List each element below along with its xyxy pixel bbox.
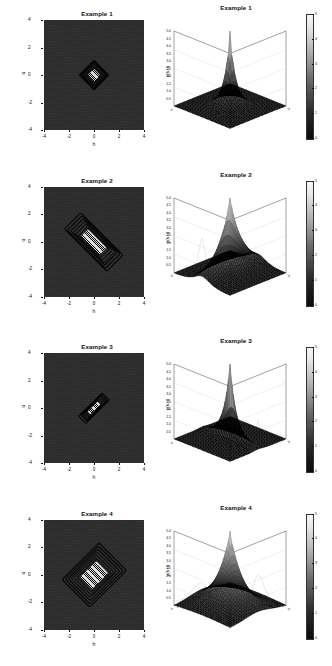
colorbar-tick-label: 1 (315, 611, 317, 615)
persp-z-tick-label: 1.5 (160, 581, 171, 585)
contour-y-tick-mark (41, 408, 43, 409)
perspective-plot: Example 25.04.54.03.53.02.52.01.51.00.5p… (160, 167, 332, 333)
persp-z-tick-label: 1.5 (160, 82, 171, 86)
contour-plot: Example 3420-2-4-4-2024hu (0, 333, 166, 499)
persp-z-tick-label: 4.0 (160, 44, 171, 48)
persp-z-tick-label: 5.0 (160, 362, 171, 366)
persp-z-tick-label: 4.0 (160, 211, 171, 215)
example-panel: Example 2420-2-4-4-2024huExample 25.04.5… (0, 167, 332, 334)
contour-x-tick-mark (94, 630, 95, 632)
persp-z-tick-label: 3.5 (160, 551, 171, 555)
contour-title: Example 4 (38, 510, 156, 517)
figure-page: Example 1420-2-4-4-2024huExample 15.04.5… (0, 0, 332, 666)
persp-z-tick-label: 0.5 (160, 596, 171, 600)
example-panel: Example 3420-2-4-4-2024huExample 35.04.5… (0, 333, 332, 500)
persp-u-tick-label: -1 (264, 597, 268, 602)
contour-y-tick-mark (41, 20, 43, 21)
persp-z-tick-label: 0.5 (160, 263, 171, 267)
persp-z-tick-label: 4.0 (160, 377, 171, 381)
contour-y-tick-mark (41, 269, 43, 270)
contour-x-tick-label: 0 (88, 467, 100, 472)
persp-z-tick-label: 5.0 (160, 29, 171, 33)
colorbar-tick-label: 3 (315, 561, 317, 565)
persp-canvas (168, 510, 300, 640)
colorbar (306, 347, 314, 473)
contour-x-tick-mark (94, 463, 95, 465)
contour-x-tick-label: 0 (88, 134, 100, 139)
contour-y-tick-mark (41, 381, 43, 382)
persp-z-tick-label: 1.5 (160, 415, 171, 419)
contour-canvas (44, 520, 144, 630)
contour-x-axis-label: h (44, 474, 144, 480)
persp-u-tick-label: -1 (264, 264, 268, 269)
example-panel: Example 1420-2-4-4-2024huExample 15.04.5… (0, 0, 332, 167)
colorbar-tick-label: 0 (315, 303, 317, 307)
contour-x-tick-mark (144, 630, 145, 632)
contour-canvas (44, 353, 144, 463)
persp-z-tick-label: 0.5 (160, 430, 171, 434)
persp-surface (168, 343, 300, 473)
persp-z-tick-label: 3.0 (160, 392, 171, 396)
contour-x-tick-label: 2 (113, 467, 125, 472)
persp-z-tick-label: 1.5 (160, 248, 171, 252)
colorbar (306, 514, 314, 640)
persp-z-tick-label: 5.0 (160, 196, 171, 200)
contour-title: Example 1 (38, 10, 156, 17)
colorbar-tick-label: 2 (315, 586, 317, 590)
contour-x-tick-label: -2 (63, 467, 75, 472)
colorbar-tick-label: 0 (315, 136, 317, 140)
persp-z-tick-label: 3.5 (160, 218, 171, 222)
colorbar-tick-label: 5 (315, 345, 317, 349)
contour-x-tick-label: -4 (38, 301, 50, 306)
persp-z-axis-label: p(h,u) (165, 398, 170, 409)
contour-y-tick-mark (41, 575, 43, 576)
persp-z-tick-label: 5.0 (160, 529, 171, 533)
persp-z-tick-label: 1.0 (160, 422, 171, 426)
colorbar-tick-label: 2 (315, 86, 317, 90)
contour-x-tick-label: 0 (88, 634, 100, 639)
persp-z-tick-label: 3.5 (160, 385, 171, 389)
contour-plot: Example 4420-2-4-4-2024hu (0, 500, 166, 666)
colorbar-tick-label: 2 (315, 253, 317, 257)
contour-x-tick-mark (119, 297, 120, 299)
colorbar-tick-label: 1 (315, 278, 317, 282)
contour-x-tick-mark (69, 297, 70, 299)
contour-x-tick-label: 0 (88, 301, 100, 306)
contour-x-tick-label: -2 (63, 134, 75, 139)
persp-canvas (168, 343, 300, 473)
colorbar-tick-label: 4 (315, 37, 317, 41)
contour-y-axis-label: u (20, 571, 26, 574)
contour-x-tick-mark (44, 130, 45, 132)
contour-x-tick-mark (69, 130, 70, 132)
persp-z-tick-label: 3.0 (160, 559, 171, 563)
contour-y-tick-mark (41, 463, 43, 464)
contour-x-tick-label: -4 (38, 467, 50, 472)
contour-x-tick-label: 2 (113, 634, 125, 639)
persp-surface (168, 10, 300, 140)
contour-y-axis-label: u (20, 238, 26, 241)
contour-title: Example 2 (38, 177, 156, 184)
colorbar-tick-label: 3 (315, 395, 317, 399)
contour-canvas (44, 20, 144, 130)
colorbar-tick-label: 1 (315, 111, 317, 115)
persp-h-tick-label: -2 (186, 433, 190, 438)
colorbar-tick-label: 5 (315, 12, 317, 16)
contour-x-tick-mark (144, 130, 145, 132)
contour-y-tick-mark (41, 436, 43, 437)
persp-z-tick-label: 4.5 (160, 370, 171, 374)
contour-x-tick-mark (94, 297, 95, 299)
persp-z-tick-label: 4.5 (160, 37, 171, 41)
contour-y-tick-mark (41, 75, 43, 76)
colorbar (306, 181, 314, 307)
persp-h-tick-label: -4 (175, 271, 179, 276)
contour-x-axis-label: h (44, 641, 144, 647)
contour-x-tick-mark (44, 297, 45, 299)
colorbar-tick-label: 2 (315, 419, 317, 423)
persp-canvas (168, 10, 300, 140)
persp-z-tick-label: 1.0 (160, 89, 171, 93)
contour-x-tick-mark (69, 463, 70, 465)
contour-x-axis-label: h (44, 308, 144, 314)
contour-plot: Example 1420-2-4-4-2024hu (0, 0, 166, 166)
contour-x-tick-label: -4 (38, 634, 50, 639)
contour-x-tick-mark (119, 630, 120, 632)
